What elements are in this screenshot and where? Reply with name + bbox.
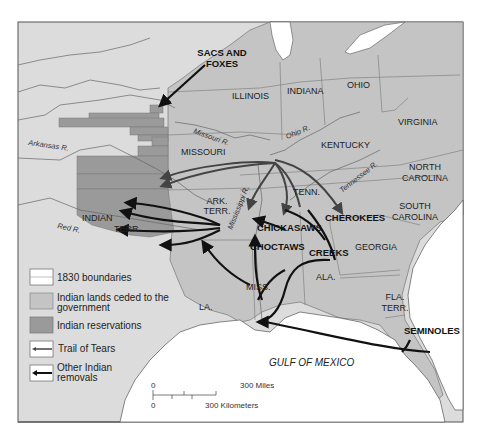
legend-trail-label: Trail of Tears <box>58 343 115 354</box>
ala-label: ALA. <box>316 272 336 282</box>
virginia-label: VIRGINIA <box>398 117 438 127</box>
georgia-label: GEORGIA <box>355 242 397 252</box>
north-carolina-label: NORTH <box>409 162 441 172</box>
chickasaws-label: CHICKASAWS <box>257 222 322 233</box>
ohio-label: OHIO <box>347 80 370 90</box>
kentucky-label: KENTUCKY <box>321 140 370 150</box>
indian-removal-map: SACS AND FOXES CHICKASAWS CHOCTAWS CHERO… <box>0 0 480 440</box>
scale-miles-zero: 0 <box>151 381 156 390</box>
legend-other-label-2: removals <box>57 372 98 383</box>
ark-terr-label: ARK. <box>206 196 227 206</box>
north-carolina-label-2: CAROLINA <box>402 173 448 183</box>
sacs-foxes-label-2: FOXES <box>206 58 238 69</box>
creeks-label: CREEKS <box>309 247 349 258</box>
sacs-foxes-label: SACS AND <box>197 47 246 58</box>
gulf-of-mexico-label: GULF OF MEXICO <box>269 357 354 368</box>
tenn-label: TENN. <box>293 187 320 197</box>
legend-boundaries-label: 1830 boundaries <box>57 272 132 283</box>
south-carolina-label: SOUTH <box>399 201 431 211</box>
indian-terr-label: INDIAN <box>82 213 113 223</box>
south-carolina-label-2: CAROLINA <box>392 212 438 222</box>
missouri-label: MISSOURI <box>181 147 226 157</box>
ark-terr-label-2: TERR. <box>204 206 231 216</box>
scale-km-label: 300 Kilometers <box>205 401 258 410</box>
legend-ceded-label-2: government <box>57 302 110 313</box>
illinois-label: ILLINOIS <box>232 91 269 101</box>
scale-miles-label: 300 Miles <box>240 381 274 390</box>
indian-terr-label-2: TERR. <box>114 224 141 234</box>
legend-reservations-label: Indian reservations <box>57 320 142 331</box>
miss-label: MISS. <box>246 282 271 292</box>
fla-terr-label: FLA. <box>385 292 404 302</box>
scale-km-zero: 0 <box>151 401 156 410</box>
seminoles-label: SEMINOLES <box>404 325 460 336</box>
la-label: LA. <box>199 302 213 312</box>
legend-item-boundaries: 1830 boundaries <box>30 269 132 285</box>
cherokees-label: CHEROKEES <box>325 212 385 223</box>
indiana-label: INDIANA <box>287 86 324 96</box>
legend-item-reservations: Indian reservations <box>30 317 142 333</box>
fla-terr-label-2: TERR. <box>382 303 409 313</box>
choctaws-label: CHOCTAWS <box>250 241 305 252</box>
